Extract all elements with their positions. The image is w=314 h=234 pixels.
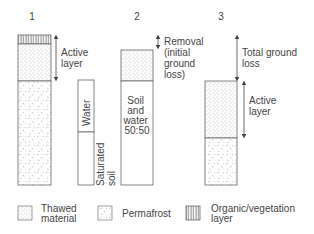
column-2: Soil and water 50:50 Removal (initial gr… <box>121 36 206 185</box>
thawed-layer <box>121 50 153 81</box>
thawed-layer <box>205 81 237 138</box>
column-2-number: 2 <box>134 11 140 22</box>
permafrost-layer <box>205 138 237 185</box>
organic-swatch <box>186 206 200 220</box>
soil-water-label: Soil and water 50:50 <box>122 95 150 136</box>
organic-layer <box>18 35 51 44</box>
thawed-layer <box>18 44 51 81</box>
total-ground-loss-label: Total ground loss <box>242 47 300 69</box>
thawed-swatch <box>18 206 32 220</box>
legend-item-permafrost: Permafrost <box>98 206 171 220</box>
legend: Thawed material Permafrost Organic/veget… <box>18 203 298 224</box>
water-label: Water <box>81 99 92 126</box>
legend-label: Organic/vegetation layer <box>211 203 298 224</box>
water-column: Water Saturated soil <box>78 80 117 186</box>
column-3-active-layer-label: Active layer <box>249 95 279 117</box>
permafrost-swatch <box>98 206 112 220</box>
saturated-soil-segment <box>78 132 94 185</box>
legend-item-organic: Organic/vegetation layer <box>186 203 298 224</box>
column-3-number: 3 <box>218 11 224 22</box>
legend-label: Thawed material <box>41 203 79 224</box>
legend-label: Permafrost <box>122 208 171 219</box>
saturated-soil-label: Saturated soil <box>95 140 117 186</box>
legend-item-thawed: Thawed material <box>18 203 79 224</box>
column-1-active-layer-label: Active layer <box>61 47 91 69</box>
column-1-number: 1 <box>29 11 35 22</box>
permafrost-layer <box>18 81 51 185</box>
column-3: Total ground loss Active layer <box>205 37 300 185</box>
removal-label: Removal (initial ground loss) <box>164 36 206 80</box>
thermokarst-diagram: 1 2 3 Active layer Water Saturated soil … <box>0 0 314 234</box>
